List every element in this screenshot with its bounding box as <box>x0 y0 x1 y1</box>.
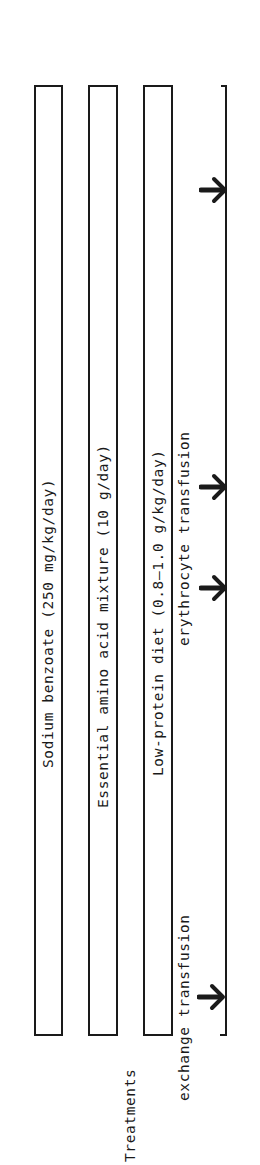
bar-label-essential-amino-acid: Essential amino acid mixture (10 g/day) <box>95 444 111 808</box>
event-label-exchange-transfusion: exchange transfusion <box>176 914 192 1101</box>
arrow-right-icon <box>197 982 227 1012</box>
arrow-right-icon <box>199 175 229 205</box>
timeline-bottom-tick <box>220 1034 226 1036</box>
bar-label-sodium-benzoate: Sodium benzoate (250 mg/kg/day) <box>40 479 56 768</box>
arrow-right-icon <box>199 573 229 603</box>
timeline-top-tick <box>221 85 227 87</box>
event-label-erythrocyte-transfusion: erythrocyte transfusion <box>176 431 192 646</box>
axis-label-treatments: Treatments <box>122 1069 138 1162</box>
bar-label-low-protein-diet: Low-protein diet (0.8–1.0 g/kg/day) <box>150 449 166 776</box>
timeline-line <box>225 85 227 1036</box>
arrow-right-icon <box>199 472 229 502</box>
